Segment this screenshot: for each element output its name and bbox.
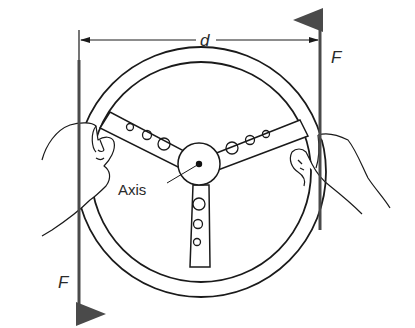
diagram-canvas: d F F Axis [0, 0, 415, 328]
force-label-bottom: F [58, 273, 70, 292]
force-label-top: F [331, 48, 343, 67]
steering-wheel-diagram: d F F Axis [0, 0, 415, 328]
right-hand [290, 134, 390, 214]
distance-label: d [200, 31, 210, 50]
axis-label: Axis [118, 181, 146, 198]
distance-dimension [79, 30, 318, 60]
